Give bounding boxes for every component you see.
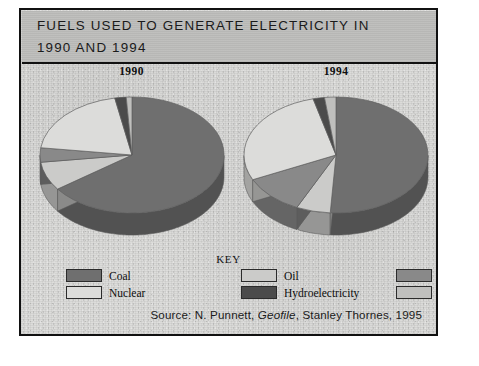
legend-item-gas: Gas	[396, 269, 438, 282]
legend-swatch-coal	[66, 269, 102, 282]
legend-item-oil: Oil	[241, 269, 396, 282]
pie-chart-1990: 1990	[29, 65, 234, 247]
figure-title-bar: FUELS USED TO GENERATE ELECTRICITY IN 19…	[22, 11, 437, 64]
source-note: Source: N. Punnett, Geofile, Stanley Tho…	[21, 308, 422, 321]
pie-svg-1994	[238, 79, 434, 244]
legend-label: Hydroelectricity	[284, 287, 359, 299]
legend-label: Nuclear	[109, 287, 145, 299]
legend-item-nuclear: Nuclear	[66, 286, 241, 299]
charts-container: 1990 1994	[21, 65, 436, 255]
legend-swatch-gas	[396, 269, 432, 282]
legend-item-coal: Coal	[66, 269, 241, 282]
legend-swatch-oil	[241, 269, 277, 282]
pie-canvas-1994	[236, 79, 436, 247]
legend-label: Oil	[284, 270, 299, 282]
legend-swatch-other	[396, 286, 432, 299]
legend-swatch-nuclear	[66, 286, 102, 299]
source-prefix: Source: N. Punnett,	[150, 308, 257, 321]
legend-heading: KEY	[21, 253, 436, 265]
legend-items: CoalOilGasNuclearHydroelectricityOther	[21, 269, 436, 299]
pie-title-1994: 1994	[236, 65, 436, 77]
legend: KEY CoalOilGasNuclearHydroelectricityOth…	[21, 253, 436, 299]
pie-title-1990: 1990	[29, 65, 234, 77]
figure-page: FUELS USED TO GENERATE ELECTRICITY IN 19…	[0, 0, 479, 366]
legend-item-hydroelectricity: Hydroelectricity	[241, 286, 396, 299]
source-suffix: , Stanley Thornes, 1995	[296, 308, 422, 321]
source-publication: Geofile	[258, 308, 296, 321]
legend-label: Coal	[109, 270, 131, 282]
page-title-line-1: FUELS USED TO GENERATE ELECTRICITY IN	[37, 18, 370, 33]
legend-swatch-hydroelectricity	[241, 286, 277, 299]
page-title-line-2: 1990 AND 1994	[37, 40, 147, 55]
pie-canvas-1990	[29, 79, 234, 247]
pie-chart-1994: 1994	[236, 65, 436, 247]
pie-svg-1990	[34, 79, 230, 244]
legend-item-other: Other	[396, 286, 438, 299]
figure-frame: FUELS USED TO GENERATE ELECTRICITY IN 19…	[19, 8, 438, 336]
